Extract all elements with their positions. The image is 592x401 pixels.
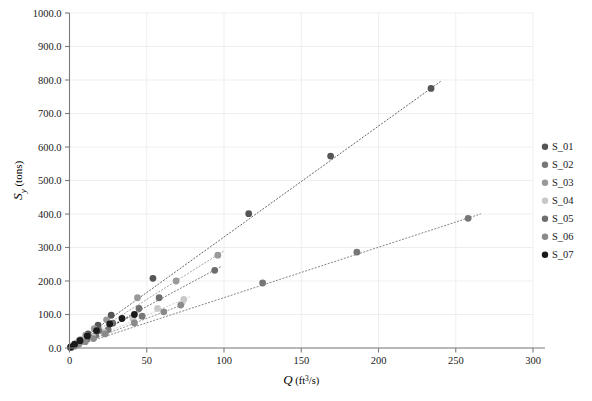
data-point [150, 275, 157, 282]
trendlines [70, 82, 481, 348]
data-point [119, 315, 126, 322]
x-tick-label: 200 [371, 355, 387, 366]
data-point [428, 85, 435, 92]
y-axis-title: Sy (tons) [10, 161, 28, 201]
data-point [102, 331, 109, 338]
data-point [77, 337, 84, 344]
x-axis: 050100150200250300 [67, 348, 541, 366]
x-tick-label: 50 [142, 355, 153, 366]
data-point [160, 308, 167, 315]
data-point [136, 305, 143, 312]
legend-marker [542, 234, 548, 240]
x-tick-label: 300 [525, 355, 541, 366]
legend: S_01S_02S_03S_04S_05S_06S_07 [542, 141, 575, 260]
data-point [106, 320, 113, 327]
y-tick-label: 900.0 [38, 41, 62, 52]
legend-marker [542, 216, 548, 222]
y-axis: 0.0100.0200.0300.0400.0500.0600.0700.080… [33, 8, 70, 354]
legend-item-s_07[interactable]: S_07 [542, 249, 574, 260]
series-s_01 [67, 85, 434, 351]
legend-label: S_03 [552, 177, 574, 188]
x-tick-label: 150 [293, 355, 309, 366]
data-point [245, 210, 252, 217]
legend-marker [542, 180, 548, 186]
y-tick-label: 800.0 [38, 75, 62, 86]
y-tick-label: 200.0 [38, 276, 62, 287]
legend-item-s_06[interactable]: S_06 [542, 231, 574, 242]
legend-label: S_04 [552, 195, 574, 206]
data-point [156, 294, 163, 301]
y-tick-label: 700.0 [38, 108, 62, 119]
legend-marker [542, 144, 548, 150]
x-tick-label: 0 [67, 355, 72, 366]
data-point [211, 267, 218, 274]
data-point [259, 280, 266, 287]
legend-item-s_05[interactable]: S_05 [542, 213, 574, 224]
scatter-plot: 0.0100.0200.0300.0400.0500.0600.0700.080… [0, 0, 592, 401]
legend-item-s_02[interactable]: S_02 [542, 159, 574, 170]
y-tick-label: 300.0 [38, 242, 62, 253]
trendline-s_01 [70, 82, 441, 348]
x-tick-label: 100 [216, 355, 232, 366]
data-point [173, 278, 180, 285]
legend-marker [542, 162, 548, 168]
data-point [465, 215, 472, 222]
data-point [327, 153, 334, 160]
legend-item-s_03[interactable]: S_03 [542, 177, 574, 188]
data-point [353, 249, 360, 256]
legend-label: S_05 [552, 213, 574, 224]
data-point [214, 252, 221, 259]
legend-marker [542, 198, 548, 204]
x-tick-label: 250 [448, 355, 464, 366]
y-tick-label: 500.0 [38, 175, 62, 186]
legend-label: S_02 [552, 159, 574, 170]
data-point [139, 313, 146, 320]
series-s_06 [67, 302, 184, 351]
legend-label: S_07 [552, 249, 574, 260]
data-point [90, 335, 97, 342]
data-point [93, 327, 100, 334]
series-s_02 [67, 215, 471, 351]
legend-item-s_04[interactable]: S_04 [542, 195, 575, 206]
x-axis-title: Q (ft3/s) [283, 372, 320, 387]
y-tick-label: 100.0 [38, 309, 62, 320]
data-point [154, 305, 161, 312]
legend-label: S_01 [552, 141, 574, 152]
chart-figure: 0.0100.0200.0300.0400.0500.0600.0700.080… [0, 0, 592, 401]
data-point [131, 319, 138, 326]
data-point [134, 294, 141, 301]
legend-marker [542, 252, 548, 258]
y-tick-label: 1000.0 [33, 8, 62, 19]
y-tick-label: 0.0 [48, 343, 61, 354]
legend-label: S_06 [552, 231, 574, 242]
data-point [131, 311, 138, 318]
y-tick-label: 400.0 [38, 209, 62, 220]
legend-item-s_01[interactable]: S_01 [542, 141, 574, 152]
data-point [84, 333, 91, 340]
data-point [177, 302, 184, 309]
y-tick-label: 600.0 [38, 142, 62, 153]
